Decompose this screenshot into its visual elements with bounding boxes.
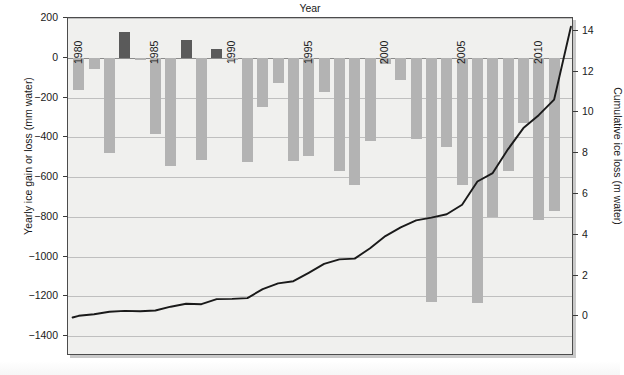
plot-area: 1980198519901995200020052010 — [67, 17, 573, 355]
y-tick-label--200: −200 — [14, 92, 58, 102]
y-tick-label--1000: −1000 — [14, 251, 58, 261]
x-axis-title: Year — [0, 2, 620, 14]
y2-tick-mark-14 — [573, 30, 578, 31]
y2-tick-mark-10 — [573, 111, 578, 112]
y2-tick-mark-6 — [573, 193, 578, 194]
y-tick-label--1400: −1400 — [14, 330, 58, 340]
y2-tick-label-8: 8 — [582, 147, 608, 157]
y2-tick-mark-0 — [573, 315, 578, 316]
y2-tick-label-2: 2 — [582, 270, 608, 280]
y2-tick-label-10: 10 — [582, 106, 608, 116]
y-axis-right-title: Cumulative ice loss (m water) — [612, 66, 624, 246]
y2-tick-label-6: 6 — [582, 188, 608, 198]
cumulative-line-series — [68, 18, 573, 355]
y-tick-label-0: 0 — [14, 52, 58, 62]
y-tick-label-200: 200 — [14, 12, 58, 22]
y2-tick-label-4: 4 — [582, 229, 608, 239]
y-axis-left-title: Yearly ice gain or loss (mm water) — [22, 71, 34, 241]
y-tick-label--1200: −1200 — [14, 290, 58, 300]
y2-tick-mark-12 — [573, 71, 578, 72]
y-tick-label--800: −800 — [14, 211, 58, 221]
cumulative-line — [73, 27, 571, 318]
y2-tick-mark-8 — [573, 152, 578, 153]
y2-tick-label-12: 12 — [582, 66, 608, 76]
y2-tick-label-14: 14 — [582, 25, 608, 35]
y-tick-label--600: −600 — [14, 171, 58, 181]
y2-tick-mark-4 — [573, 234, 578, 235]
y-tick-label--400: −400 — [14, 131, 58, 141]
y2-tick-label-0: 0 — [582, 310, 608, 320]
figure-caption — [0, 366, 620, 375]
y2-tick-mark-2 — [573, 275, 578, 276]
